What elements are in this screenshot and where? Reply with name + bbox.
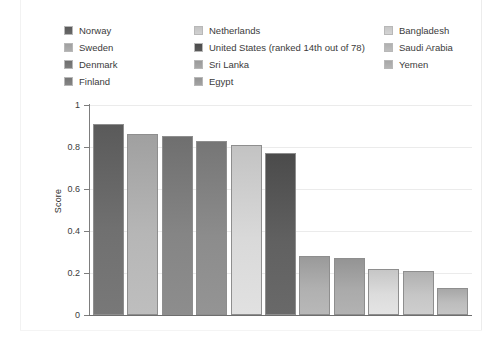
y-axis-tick-label: 0.2 — [54, 268, 80, 278]
chart-bar[interactable] — [127, 134, 158, 315]
chart-bar[interactable] — [265, 153, 296, 315]
chart-bar[interactable] — [437, 288, 468, 315]
y-axis-tick-label: 0.4 — [54, 226, 80, 236]
chart-bar[interactable] — [231, 145, 262, 315]
chart-bar[interactable] — [368, 269, 399, 315]
y-axis-tick-label: 0 — [54, 310, 80, 320]
chart-bar[interactable] — [403, 271, 434, 315]
y-axis-tick-label: 1 — [54, 100, 80, 110]
chart-bar[interactable] — [162, 136, 193, 315]
y-axis-tick-label: 0.6 — [54, 184, 80, 194]
y-axis-title: Score — [53, 141, 63, 261]
gridline — [90, 105, 472, 106]
chart-bar[interactable] — [196, 141, 227, 315]
chart-figure: NorwaySwedenDenmarkFinlandNetherlandsUni… — [0, 0, 503, 342]
plot-area — [90, 105, 472, 315]
y-axis-tick-label: 0.8 — [54, 142, 80, 152]
chart-bar[interactable] — [334, 258, 365, 315]
plot-wrapper: Score 00.20.40.60.81 — [0, 0, 503, 342]
chart-bar[interactable] — [299, 256, 330, 315]
chart-bar[interactable] — [93, 124, 124, 315]
x-axis-line — [89, 315, 472, 316]
